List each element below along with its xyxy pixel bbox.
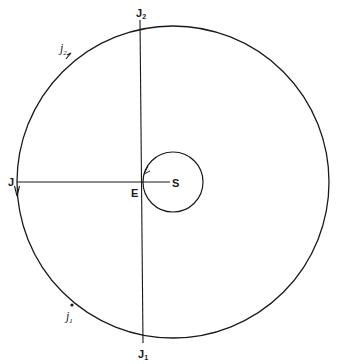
label-J1: J1 [138,348,148,361]
orbit-diagram: J2 j2 J E S j1 J1 [0,0,337,364]
label-S: S [172,177,179,189]
label-j2: j2 [58,41,67,57]
label-J: J [8,176,14,188]
label-J2: J2 [136,7,146,20]
label-j1: j1 [64,309,73,325]
j1-point-dot [70,303,73,306]
label-E: E [131,187,138,199]
